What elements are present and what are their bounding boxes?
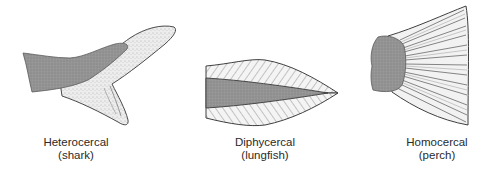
homocercal-name: Homocercal: [377, 136, 490, 149]
diphycercal-example: (lungfish): [205, 149, 325, 162]
homocercal-peduncle: [371, 36, 406, 92]
homocercal-tail: [371, 6, 469, 125]
diphycercal-name: Diphycercal: [205, 136, 325, 149]
heterocercal-tail: [23, 26, 176, 125]
diphycercal-tail: [206, 60, 338, 126]
heterocercal-label: Heterocercal (shark): [16, 136, 136, 162]
homocercal-example: (perch): [377, 149, 490, 162]
homocercal-label: Homocercal (perch): [377, 136, 490, 162]
heterocercal-name: Heterocercal: [16, 136, 136, 149]
heterocercal-example: (shark): [16, 149, 136, 162]
diphycercal-label: Diphycercal (lungfish): [205, 136, 325, 162]
